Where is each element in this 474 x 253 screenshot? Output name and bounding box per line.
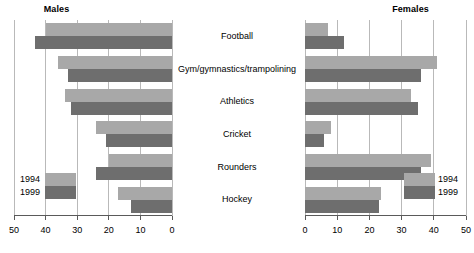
axis-tick	[433, 216, 434, 220]
bar	[305, 69, 421, 82]
axis-tick	[108, 216, 109, 220]
bar	[106, 134, 172, 147]
axis-tick	[369, 216, 370, 220]
category-label: Football	[172, 31, 302, 42]
axis-tick-label: 10	[325, 225, 349, 236]
axis-tick	[305, 216, 306, 220]
axis-tick	[401, 216, 402, 220]
bar	[305, 56, 437, 69]
panel-females-title: Females	[292, 4, 474, 15]
axis-tick-label: 10	[128, 225, 152, 236]
butterfly-bar-chart: Males 5040302010019941999 Females 010203…	[0, 0, 474, 253]
bar	[68, 69, 172, 82]
category-label: Gym/gymnastics/trampolining	[172, 64, 302, 75]
axis-tick	[45, 216, 46, 220]
axis-tick	[77, 216, 78, 220]
plot-area-females: 0102030405019941999	[305, 20, 466, 216]
axis-tick-label: 50	[454, 225, 474, 236]
bar	[305, 121, 331, 134]
legend-label: 1994	[10, 173, 40, 186]
legend-swatch	[45, 173, 76, 186]
legend-swatch	[404, 173, 435, 186]
x-axis-line	[14, 215, 172, 216]
x-axis-line	[305, 215, 466, 216]
axis-tick-label: 20	[357, 225, 381, 236]
bar	[109, 154, 172, 167]
category-label: Hockey	[172, 194, 302, 205]
category-label: Cricket	[172, 129, 302, 140]
bar	[96, 121, 172, 134]
gridline	[77, 20, 78, 216]
bar	[131, 200, 172, 213]
legend-swatch	[45, 186, 76, 199]
category-label: Athletics	[172, 96, 302, 107]
legend-label: 1994	[438, 173, 458, 186]
gridline	[466, 20, 467, 216]
axis-tick-label: 40	[422, 225, 446, 236]
axis-tick-label: 30	[390, 225, 414, 236]
bar	[35, 36, 172, 49]
panel-males-title: Males	[0, 4, 175, 15]
axis-tick-label: 20	[97, 225, 121, 236]
bar	[58, 56, 172, 69]
axis-tick-label: 50	[2, 225, 26, 236]
bar	[46, 23, 172, 36]
bar	[96, 167, 172, 180]
gridline	[108, 20, 109, 216]
legend-label: 1999	[438, 186, 458, 199]
bar	[305, 134, 324, 147]
bar	[305, 89, 411, 102]
bar	[118, 187, 172, 200]
bar	[305, 23, 328, 36]
axis-tick-label: 30	[65, 225, 89, 236]
bar	[71, 102, 172, 115]
bar	[305, 102, 418, 115]
axis-tick	[14, 216, 15, 220]
axis-tick	[140, 216, 141, 220]
category-label: Rounders	[172, 162, 302, 173]
axis-tick-label: 0	[293, 225, 317, 236]
bar	[305, 200, 379, 213]
legend-swatch	[404, 186, 435, 199]
bar	[65, 89, 172, 102]
axis-tick	[337, 216, 338, 220]
plot-area-males: 5040302010019941999	[14, 20, 172, 216]
axis-tick-label: 40	[34, 225, 58, 236]
axis-tick	[172, 216, 173, 220]
gridline	[401, 20, 402, 216]
axis-tick	[466, 216, 467, 220]
bar	[305, 154, 431, 167]
legend-label: 1999	[10, 186, 40, 199]
bar	[305, 187, 381, 200]
bar	[305, 36, 344, 49]
axis-tick-label: 0	[160, 225, 184, 236]
